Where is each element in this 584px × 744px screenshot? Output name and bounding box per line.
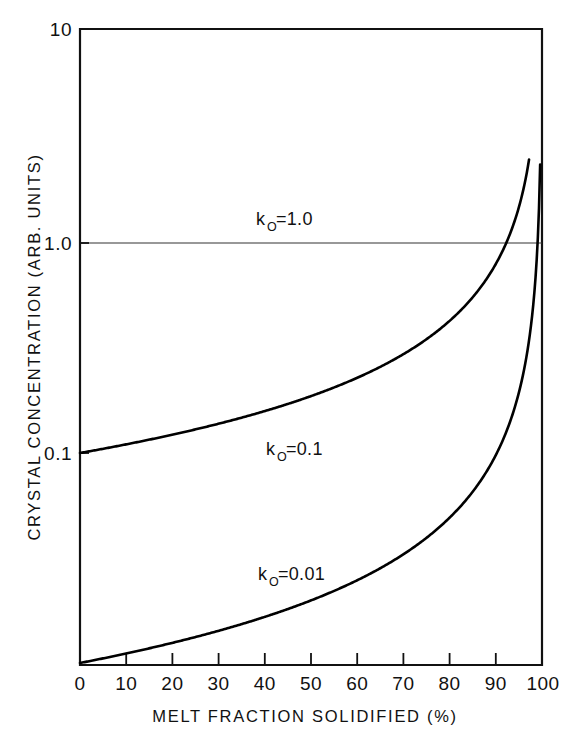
curve-label-k-1.0: k xyxy=(256,209,266,229)
x-tick-label-20: 20 xyxy=(161,673,183,694)
curve-label-k0-0.1: k O =0.1 xyxy=(266,439,323,464)
x-tick-label-0: 0 xyxy=(74,673,85,694)
curve-label-k-0.1: k xyxy=(266,439,276,459)
x-tick-label-10: 10 xyxy=(115,673,137,694)
curve-label-eq-1.0: =1.0 xyxy=(276,209,313,229)
data-curves xyxy=(80,160,540,663)
x-tick-label-50: 50 xyxy=(300,673,322,694)
x-tick-label-80: 80 xyxy=(439,673,461,694)
curve-label-k0-0.01: k O =0.01 xyxy=(258,564,325,589)
curve-label-eq-0.1: =0.1 xyxy=(286,439,323,459)
y-axis-ticks xyxy=(80,29,89,453)
y-axis-title: CRYSTAL CONCENTRATION (ARB. UNITS) xyxy=(25,153,43,540)
chart-figure: 10 1.0 0.1 0 10 20 30 40 50 60 70 80 90 … xyxy=(0,0,584,744)
x-axis-title: MELT FRACTION SOLIDIFIED (%) xyxy=(152,707,458,725)
x-tick-label-90: 90 xyxy=(485,673,507,694)
x-tick-label-60: 60 xyxy=(346,673,368,694)
x-tick-label-70: 70 xyxy=(392,673,414,694)
curve-label-k-0.01: k xyxy=(258,564,268,584)
x-axis-ticks xyxy=(80,653,542,665)
curve-k0-0.01 xyxy=(80,164,540,663)
x-tick-label-30: 30 xyxy=(208,673,230,694)
y-tick-label-0.1: 0.1 xyxy=(44,443,72,464)
y-tick-label-1.0: 1.0 xyxy=(44,233,72,254)
chart-svg: 10 1.0 0.1 0 10 20 30 40 50 60 70 80 90 … xyxy=(0,0,584,744)
y-tick-label-10: 10 xyxy=(50,19,72,40)
x-tick-label-40: 40 xyxy=(254,673,276,694)
curve-label-k0-1.0: k O =1.0 xyxy=(256,209,313,234)
curve-k0-0.1 xyxy=(80,160,529,453)
x-tick-label-100: 100 xyxy=(526,673,559,694)
curve-label-eq-0.01: =0.01 xyxy=(278,564,325,584)
